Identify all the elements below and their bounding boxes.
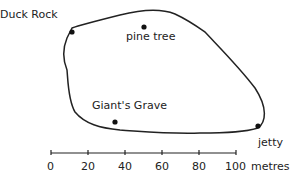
scale-tick-100: 100 [225, 161, 246, 172]
island-map [0, 0, 302, 182]
scale-tick-80: 80 [192, 161, 206, 172]
label-duck-rock: Duck Rock [0, 9, 58, 20]
scale-bar [51, 150, 236, 155]
duck-rock-dot [69, 29, 74, 34]
pine-tree-dot [141, 24, 146, 29]
jetty-dot [255, 123, 260, 128]
scale-tick-40: 40 [118, 161, 132, 172]
scale-tick-60: 60 [155, 161, 169, 172]
giants-grave-dot [112, 119, 117, 124]
scale-unit: metres [251, 161, 290, 172]
label-jetty: jetty [258, 137, 283, 148]
island-outline [64, 10, 265, 133]
label-giants-grave: Giant's Grave [92, 100, 167, 111]
scale-tick-20: 20 [81, 161, 95, 172]
label-pine-tree: pine tree [126, 31, 175, 42]
scale-tick-0: 0 [47, 161, 54, 172]
